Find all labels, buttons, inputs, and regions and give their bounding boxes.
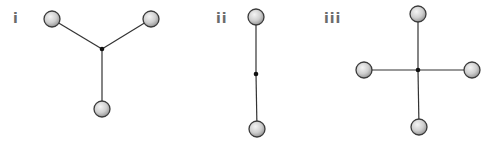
atom-sphere <box>44 11 60 27</box>
molecular-geometry-figure: i ii iii <box>0 0 485 144</box>
atom-sphere <box>411 119 427 135</box>
panel-label-i: i <box>13 11 19 25</box>
atom-sphere <box>143 11 159 27</box>
panel-label-ii: ii <box>216 11 228 25</box>
central-atom-dot <box>254 72 259 77</box>
atom-sphere <box>248 9 264 25</box>
atom-sphere <box>356 62 372 78</box>
atom-sphere <box>464 62 480 78</box>
central-atom-dot <box>416 68 421 73</box>
bonds-layer <box>52 14 472 129</box>
atom-sphere <box>94 101 110 117</box>
panel-label-iii: iii <box>324 11 341 25</box>
atom-sphere <box>249 121 265 137</box>
atom-sphere <box>410 6 426 22</box>
bond-line <box>52 19 102 49</box>
atoms-layer <box>44 6 480 137</box>
geometry-diagrams-canvas <box>0 0 485 144</box>
central-atom-dot <box>100 47 105 52</box>
